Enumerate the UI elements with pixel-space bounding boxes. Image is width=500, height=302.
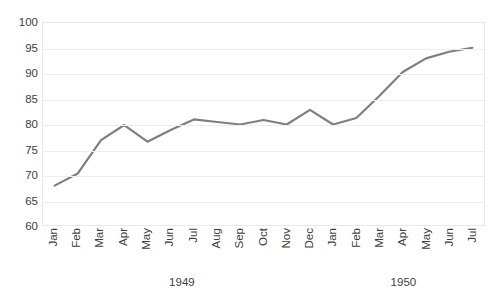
- x-tick-label: Nov: [281, 228, 293, 248]
- plot-area: [42, 22, 485, 226]
- x-tick-label: Dec: [304, 228, 316, 248]
- x-tick-label: Jul: [467, 228, 479, 243]
- x-tick-label: Jan: [327, 228, 339, 247]
- y-tick-label: 60: [2, 220, 38, 232]
- x-tick-label: Apr: [397, 228, 409, 246]
- gridline: [43, 49, 484, 50]
- x-axis-group-labels: 19491950: [42, 276, 485, 296]
- x-axis-group-label: 1949: [169, 276, 195, 288]
- x-axis-group-label: 1950: [391, 276, 417, 288]
- x-tick-label: May: [141, 228, 153, 250]
- gridline: [43, 151, 484, 152]
- y-tick-label: 95: [2, 42, 38, 54]
- y-tick-label: 100: [2, 16, 38, 28]
- x-tick-label: Jun: [444, 228, 456, 247]
- gridline: [43, 176, 484, 177]
- line-chart: 6065707580859095100 JanFebMarAprMayJunJu…: [0, 0, 500, 302]
- x-tick-label: Jan: [48, 228, 60, 247]
- x-tick-label: Mar: [94, 228, 106, 248]
- series-line: [43, 23, 484, 225]
- gridline: [43, 125, 484, 126]
- y-tick-label: 70: [2, 169, 38, 181]
- x-tick-label: Aug: [211, 228, 223, 248]
- gridline: [43, 74, 484, 75]
- x-tick-label: Feb: [351, 228, 363, 248]
- y-tick-label: 75: [2, 144, 38, 156]
- x-tick-label: May: [421, 228, 433, 250]
- x-axis: JanFebMarAprMayJunJulAugSepOctNovDecJanF…: [42, 228, 485, 272]
- x-tick-label: Mar: [374, 228, 386, 248]
- y-tick-label: 65: [2, 195, 38, 207]
- y-tick-label: 90: [2, 67, 38, 79]
- y-axis: 6065707580859095100: [0, 0, 38, 250]
- y-tick-label: 85: [2, 93, 38, 105]
- y-tick-label: 80: [2, 118, 38, 130]
- x-tick-label: Jul: [188, 228, 200, 243]
- gridline: [43, 100, 484, 101]
- x-tick-label: Apr: [118, 228, 130, 246]
- x-tick-label: Oct: [258, 228, 270, 246]
- x-tick-label: Sep: [234, 228, 246, 248]
- x-tick-label: Feb: [71, 228, 83, 248]
- gridline: [43, 202, 484, 203]
- x-tick-label: Jun: [164, 228, 176, 247]
